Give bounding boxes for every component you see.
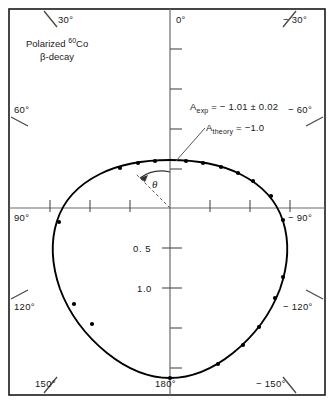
angle-label-180: 180°: [155, 378, 176, 389]
isotope-mass-number: 60: [68, 37, 76, 44]
data-point: [257, 325, 261, 329]
angle-label-m120: − 120°: [283, 301, 313, 312]
plot-title-line2: β-decay: [26, 50, 88, 63]
data-point: [57, 220, 61, 224]
data-point: [281, 218, 285, 222]
theta-label: θ: [152, 178, 157, 190]
data-point: [273, 296, 277, 300]
data-point: [251, 179, 255, 183]
angle-label-60: 60°: [14, 104, 29, 115]
data-point: [281, 275, 285, 279]
theta-arrow-head: [140, 175, 148, 182]
data-point: [219, 165, 223, 169]
isotope-symbol: Co: [76, 38, 88, 49]
data-point: [216, 362, 220, 366]
radial-label-1p0: 1.0: [137, 283, 152, 294]
data-point: [118, 166, 122, 170]
angle-label-0: 0°: [176, 14, 186, 25]
a-theory-subscript: theory: [213, 128, 234, 135]
data-point: [153, 159, 157, 163]
data-point: [241, 343, 245, 347]
angle-label-90: 90°: [14, 212, 29, 223]
annotation-leader-line: [176, 128, 205, 161]
angle-label-120: 120°: [14, 301, 35, 312]
radial-ticks-vertical-lower: [170, 248, 182, 368]
data-point-group: [57, 159, 285, 380]
data-point: [236, 171, 240, 175]
a-theory-annotation: Atheory = −1.0: [206, 122, 264, 135]
data-point: [136, 161, 140, 165]
data-point: [90, 322, 94, 326]
data-point: [184, 159, 188, 163]
radial-ticks-vertical-upper: [170, 49, 182, 169]
angle-label-150: 150°: [35, 378, 56, 389]
a-theory-value: = −1.0: [233, 122, 264, 133]
a-exp-annotation: Aexp = − 1.01 ± 0.02: [190, 101, 278, 114]
plot-title-line1: Polarized 60Co: [26, 34, 88, 50]
angle-label-m30: − 30°: [283, 14, 307, 25]
angle-label-m60: − 60°: [288, 104, 312, 115]
plot-frame: [9, 9, 325, 395]
a-exp-subscript: exp: [197, 107, 209, 114]
angle-label-m150: − 150°: [256, 378, 286, 389]
angle-label-30: 30°: [58, 14, 73, 25]
data-point: [201, 161, 205, 165]
polar-figure: Polarized 60Co β-decay Aexp = − 1.01 ± 0…: [0, 0, 334, 417]
angle-edge-ticks: [11, 11, 323, 393]
angle-label-m90: − 90°: [288, 212, 312, 223]
data-point: [72, 302, 76, 306]
plot-title-prefix: Polarized: [26, 38, 68, 49]
plot-title: Polarized 60Co β-decay: [26, 34, 88, 63]
radial-label-0p5: 0. 5: [133, 243, 151, 254]
a-exp-value: = − 1.01 ± 0.02: [208, 101, 278, 112]
radial-ticks-left: [162, 248, 170, 288]
data-point: [269, 194, 273, 198]
